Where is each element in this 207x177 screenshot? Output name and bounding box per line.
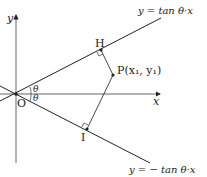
point-O (14, 92, 18, 96)
x-axis-label: x (153, 95, 160, 108)
diagram-canvas: y x O θ θ H P(x₁, y₁) I y = tan θ·x y = … (0, 0, 207, 177)
angle-label-lower: θ (33, 93, 39, 103)
point-P (111, 73, 114, 76)
label-H: H (95, 37, 105, 50)
label-P: P(x₁, y₁) (117, 64, 161, 77)
y-axis-label: y (6, 12, 14, 25)
point-I (85, 127, 88, 130)
segment-PI (87, 75, 113, 129)
angle-arc-upper (30, 87, 31, 94)
origin-label: O (17, 97, 26, 110)
equation-lower: y = − tan θ·x (128, 164, 196, 175)
right-angle-I (82, 123, 88, 127)
label-I: I (81, 131, 85, 144)
equation-upper: y = tan θ·x (137, 5, 193, 16)
angle-arc-lower (30, 94, 31, 101)
line-upper (0, 18, 161, 101)
